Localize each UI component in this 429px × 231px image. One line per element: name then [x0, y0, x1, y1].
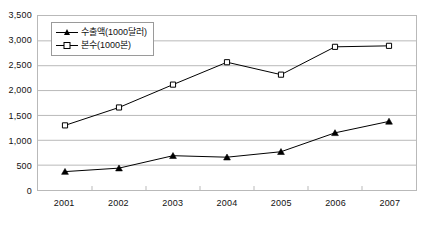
- filled-triangle-marker-icon: [56, 27, 78, 38]
- data-point-marker-square: [332, 44, 337, 49]
- series-line: [65, 46, 389, 126]
- data-point-marker-square: [224, 60, 229, 65]
- data-point-marker-square: [278, 72, 283, 77]
- y-axis-tick-label: 0: [27, 186, 32, 196]
- series-0: [62, 118, 393, 174]
- series-line: [65, 121, 389, 171]
- data-point-marker-square: [116, 105, 121, 110]
- x-axis-tick-label: 2005: [271, 198, 292, 208]
- data-point-marker-square: [170, 82, 175, 87]
- x-axis-tick-label: 2004: [217, 198, 238, 208]
- y-axis-tick-label: 2,000: [8, 85, 32, 95]
- y-axis-labels: 05001,0001,5002,0002,5003,0003,500: [0, 0, 36, 231]
- x-axis-tick-label: 2001: [54, 198, 75, 208]
- legend-item-0: 수출액(1000달러): [56, 26, 147, 39]
- x-axis-tick-label: 2006: [325, 198, 346, 208]
- x-axis-tick-label: 2007: [379, 198, 400, 208]
- y-axis-tick-label: 1,500: [8, 111, 32, 121]
- legend-label-stem-count: 본수(1000본): [81, 40, 131, 51]
- y-axis-tick-label: 3,500: [8, 10, 32, 20]
- data-point-marker-square: [386, 43, 391, 48]
- x-axis-tick-label: 2002: [108, 198, 129, 208]
- data-point-marker-triangle: [386, 118, 393, 124]
- legend-item-1: 본수(1000본): [56, 39, 147, 52]
- open-square-marker-icon: [56, 40, 78, 51]
- data-point-marker-square: [62, 123, 67, 128]
- x-axis-tick-label: 2003: [162, 198, 183, 208]
- y-axis-tick-label: 3,000: [8, 35, 32, 45]
- legend-label-export-amount: 수출액(1000달러): [81, 27, 147, 38]
- line-chart: 05001,0001,5002,0002,5003,0003,500 20012…: [0, 0, 429, 231]
- chart-legend: 수출액(1000달러) 본수(1000본): [51, 22, 154, 56]
- x-axis-labels: 2001200220032004200520062007: [37, 194, 417, 218]
- y-axis-tick-label: 1,000: [8, 136, 32, 146]
- y-axis-tick-label: 2,500: [8, 60, 32, 70]
- y-axis-tick-label: 500: [16, 161, 32, 171]
